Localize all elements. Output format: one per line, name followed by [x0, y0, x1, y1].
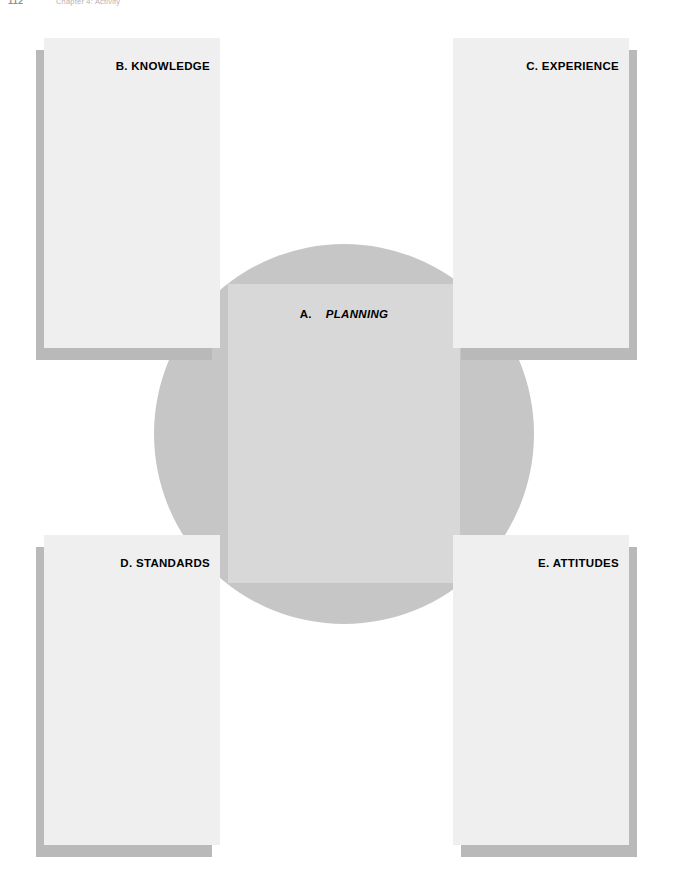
- card-label-standards: D. STANDARDS: [44, 557, 210, 569]
- card-label-attitudes: E. ATTITUDES: [453, 557, 619, 569]
- card-experience[interactable]: C. EXPERIENCE: [453, 38, 629, 348]
- card-label-knowledge: B. KNOWLEDGE: [44, 60, 210, 72]
- card-surface[interactable]: [44, 535, 220, 845]
- card-surface[interactable]: [453, 535, 629, 845]
- card-attitudes[interactable]: E. ATTITUDES: [453, 535, 629, 845]
- card-surface[interactable]: [44, 38, 220, 348]
- card-label-experience: C. EXPERIENCE: [453, 60, 619, 72]
- center-label-name: PLANNING: [326, 308, 388, 320]
- worksheet-page: 112 Chapter 4: Activity A. PLANNING B. K…: [0, 0, 681, 890]
- center-label-lead: A.: [300, 308, 312, 320]
- card-knowledge[interactable]: B. KNOWLEDGE: [44, 38, 220, 348]
- center-label: A. PLANNING: [228, 308, 460, 320]
- card-standards[interactable]: D. STANDARDS: [44, 535, 220, 845]
- card-surface[interactable]: [453, 38, 629, 348]
- center-vertical-band-shape: [228, 284, 460, 583]
